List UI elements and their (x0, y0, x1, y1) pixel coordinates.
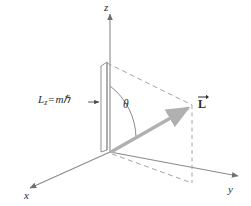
axis-y-line (110, 152, 238, 176)
theta-label: θ (123, 99, 129, 111)
lz-value: mℏ (55, 93, 70, 105)
dashed-lz-to-tip (107, 63, 192, 105)
axis-label-y: y (228, 184, 233, 195)
lz-component-bar (101, 62, 107, 152)
axis-x (30, 152, 110, 188)
l-vector-label: L (198, 95, 206, 110)
vector-accent-arrow (198, 94, 209, 99)
l-vector-symbol: L (198, 97, 206, 111)
dashed-xy-projection (112, 154, 192, 183)
axis-x-line (30, 152, 110, 188)
axis-y (110, 152, 238, 176)
l-vector (111, 108, 188, 152)
angular-momentum-diagram: z x y θ Lz=mℏ L (0, 0, 251, 206)
axis-label-z: z (104, 2, 108, 13)
theta-arc-path (110, 86, 136, 138)
theta-arc (110, 86, 136, 138)
axis-label-x: x (24, 190, 29, 201)
l-vector-arrow (111, 108, 188, 152)
lz-equation-label: Lz=mℏ (38, 94, 70, 107)
lz-bar-face (101, 62, 107, 152)
